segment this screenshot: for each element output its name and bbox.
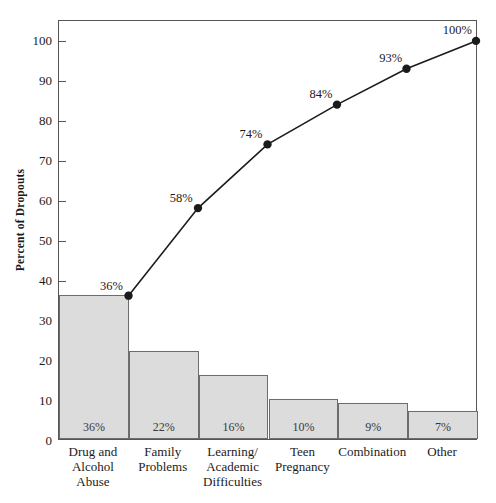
y-tick-label: 100 bbox=[22, 34, 52, 47]
y-tick-label: 60 bbox=[22, 194, 52, 207]
cumulative-point-marker bbox=[402, 65, 410, 73]
y-tick-label: 40 bbox=[22, 274, 52, 287]
pareto-chart: Percent of Dropouts 01020304050607080901… bbox=[0, 0, 496, 503]
y-tick-label: 0 bbox=[22, 434, 52, 447]
cumulative-line-layer bbox=[59, 21, 476, 439]
y-tick-label: 10 bbox=[22, 394, 52, 407]
cumulative-point-marker bbox=[472, 37, 480, 45]
plot-area: 36%22%16%10%9%7% 36%58%74%84%93%100% bbox=[58, 20, 477, 440]
y-tick-label: 90 bbox=[22, 74, 52, 87]
y-tick-label: 30 bbox=[22, 314, 52, 327]
cumulative-value-label: 93% bbox=[379, 51, 408, 66]
cumulative-point-marker bbox=[333, 100, 341, 108]
category-label: Other bbox=[401, 444, 483, 459]
y-tick-label: 20 bbox=[22, 354, 52, 367]
cumulative-value-label: 58% bbox=[170, 191, 199, 206]
cumulative-line bbox=[129, 41, 477, 296]
y-axis-tick-labels: 0102030405060708090100 bbox=[22, 0, 52, 503]
cumulative-value-label: 84% bbox=[309, 87, 338, 102]
cumulative-value-label: 36% bbox=[100, 279, 129, 294]
category-labels: Drug and Alcohol AbuseFamily ProblemsLea… bbox=[58, 444, 477, 500]
y-tick-label: 50 bbox=[22, 234, 52, 247]
cumulative-value-label: 74% bbox=[240, 127, 269, 142]
y-tick-label: 80 bbox=[22, 114, 52, 127]
cumulative-value-label: 100% bbox=[443, 23, 478, 38]
y-tick-label: 70 bbox=[22, 154, 52, 167]
